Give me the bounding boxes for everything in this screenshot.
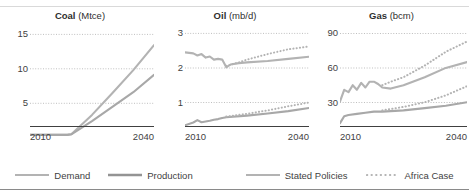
- legend-item-demand: Demand: [15, 170, 90, 181]
- panel-oil-title: Oil (mb/d): [159, 10, 311, 21]
- panel-gas-title-main: Gas: [369, 10, 387, 21]
- panel-coal-xtick-end: 2040: [133, 131, 154, 142]
- panel-oil-axis-line: [185, 126, 309, 127]
- panel-coal-axis-line: [30, 126, 154, 127]
- panel-coal-x-axis: 2010 2040: [30, 126, 154, 148]
- series-oil-production-stated: [185, 108, 309, 125]
- panel-oil-title-unit: (mb/d): [229, 10, 256, 21]
- panel-gas-ytick-60: 60: [327, 63, 338, 73]
- panel-oil-ytick-3: 3: [178, 28, 183, 38]
- panel-gas-plot: [340, 23, 467, 137]
- panel-oil-ytick-1: 1: [178, 98, 183, 108]
- panel-oil-x-axis: 2010 2040: [185, 126, 309, 148]
- legend-label-africa-case: Africa Case: [405, 170, 454, 181]
- line-swatch-icon: [246, 170, 280, 180]
- panel-oil-title-main: Oil: [214, 10, 227, 21]
- figure-root: Coal (Mtce) 15 10 5: [0, 0, 469, 195]
- panel-oil-y-axis: 3 2 1: [159, 23, 185, 137]
- panel-gas-xtick-end: 2040: [446, 131, 467, 142]
- series-gas-production-stated: [340, 102, 467, 123]
- panel-gas-ytick-30: 30: [327, 98, 338, 108]
- panel-coal-ytick-15: 15: [17, 29, 28, 39]
- panel-coal-ytick-10: 10: [17, 64, 28, 74]
- panel-coal-title: Coal (Mtce): [4, 10, 156, 21]
- panel-gas-y-axis: 90 60 30: [314, 23, 340, 137]
- panel-gas-x-axis: 2010 2040: [340, 126, 467, 148]
- legend-item-africa-case: Africa Case: [366, 170, 454, 181]
- panel-gas-xtick-start: 2010: [340, 131, 361, 142]
- legend-label-demand: Demand: [54, 170, 90, 181]
- legend-label-production: Production: [147, 170, 192, 181]
- dotted-line-swatch-icon: [366, 170, 400, 180]
- panel-oil: Oil (mb/d) 3 2 1: [159, 10, 311, 162]
- panel-oil-xtick-end: 2040: [288, 131, 309, 142]
- panel-oil-xtick-start: 2010: [185, 131, 206, 142]
- panel-coal-svg: [30, 23, 154, 137]
- series-gas-demand-africa: [382, 42, 467, 86]
- panel-gas: Gas (bcm) 90 60 30: [314, 10, 469, 162]
- series-oil-demand-stated: [185, 52, 309, 67]
- series-gas-production-africa: [382, 86, 467, 110]
- panel-oil-svg: [185, 23, 309, 137]
- bottom-divider: [0, 189, 469, 190]
- legend-label-stated-policies: Stated Policies: [285, 170, 348, 181]
- line-swatch-icon: [15, 170, 49, 180]
- panel-gas-ytick-90: 90: [327, 28, 338, 38]
- panel-gas-title-unit: (bcm): [390, 10, 414, 21]
- panel-gas-svg: [340, 23, 467, 137]
- panel-gas-title: Gas (bcm): [314, 10, 469, 21]
- top-divider: [0, 6, 469, 7]
- panel-coal-title-main: Coal: [55, 10, 76, 21]
- panel-coal-plot: [30, 23, 154, 137]
- legend-item-production: Production: [108, 170, 192, 181]
- panel-coal-ytick-5: 5: [23, 98, 28, 108]
- panel-oil-plot: [185, 23, 309, 137]
- chart-legend: Demand Production Stated Policies Africa…: [0, 165, 469, 185]
- line-swatch-icon: [108, 170, 142, 180]
- legend-item-stated-policies: Stated Policies: [246, 170, 348, 181]
- panel-coal-title-unit: (Mtce): [78, 10, 105, 21]
- panel-coal-xtick-start: 2010: [30, 131, 51, 142]
- panel-coal-y-axis: 15 10 5: [4, 23, 30, 137]
- panel-gas-axis-line: [340, 126, 467, 127]
- panel-oil-ytick-2: 2: [178, 63, 183, 73]
- panels-container: Coal (Mtce) 15 10 5: [0, 10, 469, 162]
- series-oil-demand-africa: [226, 47, 309, 66]
- panel-coal: Coal (Mtce) 15 10 5: [4, 10, 156, 162]
